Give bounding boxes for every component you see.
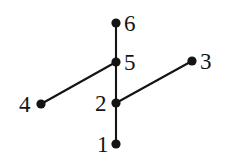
graph-node-label-3: 3 [200,50,212,73]
graph-node-label-2: 2 [95,92,107,115]
graph-canvas [0,0,230,162]
graph-node-4[interactable] [36,99,45,108]
graph-node-5[interactable] [111,57,120,66]
graph-node-3[interactable] [187,56,196,65]
graph-node-label-5: 5 [124,51,136,74]
graph-node-label-6: 6 [124,12,136,35]
graph-node-label-4: 4 [19,93,31,116]
graph-node-label-1: 1 [97,133,109,156]
graph-node-1[interactable] [111,139,120,148]
graph-node-2[interactable] [111,98,120,107]
graph-node-6[interactable] [111,18,120,27]
edge-layer [41,23,192,144]
graph-diagram: 123456 [0,0,230,162]
